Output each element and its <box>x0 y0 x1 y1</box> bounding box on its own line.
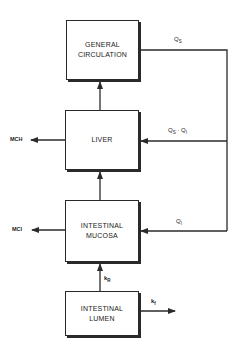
box-label: LIVER <box>91 136 112 143</box>
box-label: INTESTINAL <box>81 222 123 229</box>
box-label: MUCOSA <box>86 232 118 239</box>
label-qs: QS <box>174 36 182 44</box>
box-label: GENERAL <box>85 41 120 48</box>
label-kr: kR <box>104 275 111 283</box>
box-label: LUMEN <box>89 315 115 322</box>
label-mci: MCI <box>12 226 22 232</box>
box-general-circulation: GENERALCIRCULATION <box>66 20 139 80</box>
label-mch: MCH <box>10 136 23 142</box>
label-qs-minus-qi: QS · QI <box>168 127 187 135</box>
box-label: INTESTINAL <box>81 305 123 312</box>
label-qi: QI <box>176 218 182 226</box>
box-intestinal-lumen: INTESTINALLUMEN <box>65 291 139 336</box>
box-intestinal-mucosa: INTESTINALMUCOSA <box>65 200 139 262</box>
label-kf: kf <box>151 298 156 306</box>
box-label: CIRCULATION <box>78 51 127 58</box>
box-liver: LIVER <box>65 110 139 170</box>
